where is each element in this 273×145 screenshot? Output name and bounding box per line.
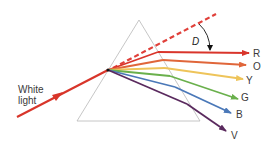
deviation-arc-icon (199, 24, 210, 50)
label-violet: V (231, 130, 238, 141)
deviation-label: D (192, 36, 199, 47)
label-yellow: Y (246, 75, 253, 86)
ray-orange (163, 60, 246, 65)
incident-arrow-icon (52, 92, 63, 101)
white-light-label-line2: light (18, 95, 37, 106)
ray-blue (175, 87, 231, 113)
white-light-label-line1: White (18, 84, 44, 95)
label-orange: O (253, 61, 261, 72)
label-red: R (253, 48, 260, 59)
label-green: G (241, 92, 249, 103)
ray-red (158, 52, 249, 53)
label-blue: B (236, 109, 243, 120)
prism-diagram: D White light R O Y G B V (0, 0, 273, 145)
entry-point (106, 68, 109, 71)
